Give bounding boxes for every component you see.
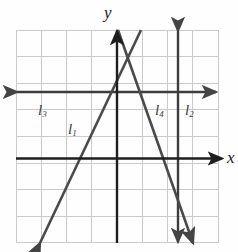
line-label-l4: l4 [155, 103, 164, 118]
line-label-l4-sub: 4 [159, 109, 164, 119]
line-label-l1-sub: 1 [72, 128, 77, 138]
line-label-l3: l3 [38, 103, 47, 118]
line-label-l1: l1 [68, 122, 77, 137]
coordinate-graph-figure: y x l1 l2 l3 l4 [0, 0, 238, 252]
x-axis-label: x [227, 149, 235, 166]
y-axis-label: y [104, 4, 112, 21]
graph-canvas [0, 0, 238, 252]
line-label-l2: l2 [185, 103, 194, 118]
line-label-l2-sub: 2 [189, 109, 194, 119]
line-label-l3-sub: 3 [42, 109, 47, 119]
